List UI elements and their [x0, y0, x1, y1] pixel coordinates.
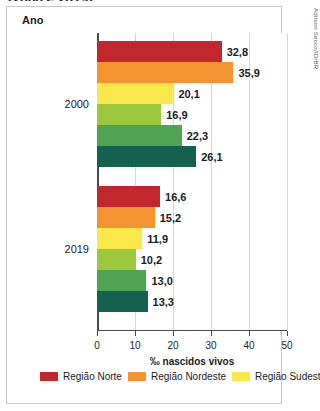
x-axis-tick-label: 50 [281, 340, 292, 351]
legend-item[interactable]: Região Nordeste [128, 370, 226, 383]
bar-value-label: 16,9 [166, 109, 187, 121]
x-axis-tick [97, 331, 98, 336]
bar [97, 104, 161, 125]
bar-value-label: 22,3 [187, 130, 208, 142]
x-axis-tick [287, 331, 288, 336]
bar [97, 228, 142, 249]
bar-value-label: 13,3 [153, 296, 174, 308]
y-axis-title: Ano [22, 14, 43, 26]
legend-swatch [128, 372, 146, 381]
bar-value-label: 11,9 [147, 233, 168, 245]
bar [97, 125, 182, 146]
x-axis-tick [173, 331, 174, 336]
x-axis-tick-label: 30 [205, 340, 216, 351]
legend-swatch [40, 372, 58, 381]
x-axis-tick [211, 331, 212, 336]
chart-title-clipped: (2000 e 2019) [8, 0, 93, 1]
bar [97, 270, 146, 291]
bar [97, 83, 173, 104]
legend-label: Região Norte [63, 371, 122, 382]
bar-value-label: 10,2 [141, 254, 162, 266]
bar-value-label: 32,8 [227, 46, 248, 58]
gridline [287, 33, 288, 331]
y-axis-category-label: 2019 [49, 243, 89, 255]
chart-legend: Região NorteRegião NordesteRegião Sudest… [40, 370, 280, 383]
bar-value-label: 35,9 [238, 67, 259, 79]
legend-swatch [232, 372, 250, 381]
y-axis-category-label: 2000 [49, 98, 89, 110]
bar-value-label: 13,0 [151, 275, 172, 287]
bar [97, 207, 155, 228]
legend-label: Região Nordeste [151, 371, 226, 382]
x-axis-label: ‰ nascidos vivos [97, 356, 287, 367]
bar [97, 186, 160, 207]
x-axis-tick-label: 0 [94, 340, 100, 351]
bar-value-label: 26,1 [201, 151, 222, 163]
chart-figure: (2000 e 2019) Ano 0102030405032,835,920,… [0, 0, 303, 411]
x-axis-tick [135, 331, 136, 336]
bar-value-label: 16,6 [165, 191, 186, 203]
bar [97, 291, 148, 312]
legend-label: Região Sudeste [255, 371, 303, 382]
plot-area: 0102030405032,835,920,116,922,326,120001… [97, 33, 287, 331]
bar [97, 249, 136, 270]
bar [97, 41, 222, 62]
bar-value-label: 15,2 [160, 212, 181, 224]
x-axis-tick-label: 40 [243, 340, 254, 351]
legend-item[interactable]: Região Norte [40, 370, 122, 383]
bar [97, 146, 196, 167]
x-axis-tick [249, 331, 250, 336]
x-axis-line [97, 330, 287, 332]
x-axis-tick-label: 10 [129, 340, 140, 351]
legend-item[interactable]: Região Sudeste [232, 370, 303, 383]
x-axis-tick-label: 20 [167, 340, 178, 351]
bar [97, 62, 233, 83]
bar-value-label: 20,1 [178, 88, 199, 100]
